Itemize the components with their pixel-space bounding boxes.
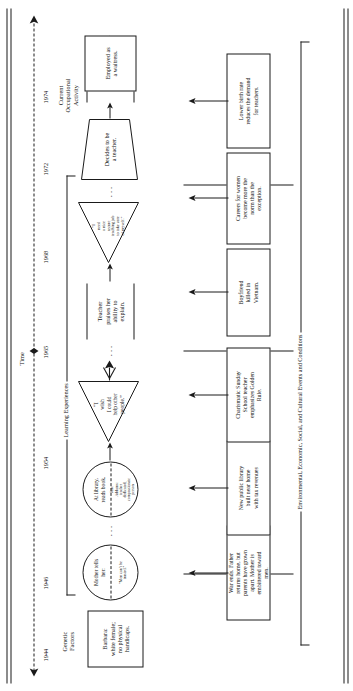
page-rule-bottom-outer: [347, 8, 348, 683]
arrow-teacher-to-need: [105, 263, 114, 281]
year-1974: 1974: [41, 90, 48, 103]
time-axis-mid-tick: [28, 346, 39, 355]
genetic-factors-box: Barbara: white female; no physical handi…: [87, 610, 143, 667]
env-box-war-ends: War ends. Father returns home, but paren…: [226, 525, 270, 620]
env-box-lower-birth-rate: Lower birth rate reduces the demand for …: [226, 53, 270, 148]
diagram-canvas: Time 1944 1946 1954 1965 1968 1972 1974 …: [0, 0, 353, 691]
node-mother-tells-her: Mother tells her: “Men can’t be trusted.…: [82, 544, 138, 600]
node-at-library-bottom: Jane Addams: teacher dedicated, compassi…: [110, 462, 137, 516]
diagram-page: Time 1944 1946 1954 1965 1968 1972 1974 …: [0, 0, 353, 691]
year-1944: 1944: [41, 648, 48, 661]
ellipsis-3: ···: [107, 185, 115, 198]
node-teacher-praises-her: Teacher praises her ability to explain.: [86, 283, 134, 339]
environmental-conditions-label: Environmental, Economic, Social, and Cul…: [295, 332, 302, 511]
env-box-careers-for-women: Careers for women become more the norm t…: [226, 152, 270, 244]
node-mother-tells-her-bottom: “Men can’t be trusted.”: [110, 545, 137, 599]
node-at-library-reads-book: At library, reads book. Jane Addams: tea…: [82, 461, 138, 517]
page-rule-bottom-inner: [343, 8, 344, 683]
ellipsis-1: ···: [107, 524, 115, 537]
arrow-decides-to-searches: [105, 102, 114, 118]
arrow-war-ends-to-node: [188, 568, 228, 577]
node-mother-tells-her-top: Mother tells her:: [83, 545, 110, 599]
triple-arrow-wish-to-teacher: [100, 360, 118, 380]
learning-experiences-label: Learning Experiences: [61, 381, 68, 439]
env-box-new-public-library: New public library built near home with …: [226, 440, 270, 535]
arrow-library-to-wish: [105, 442, 114, 460]
env-box-sunday-school-teacher: Charismatic Sunday School teacher emphas…: [226, 347, 270, 442]
year-1965: 1965: [41, 345, 48, 358]
year-1954: 1954: [41, 456, 48, 469]
node-wish-help-other-people: “I wish I could help other people.”: [77, 380, 139, 442]
node-decides-to-be-a-teacher: Decides to be a teacher.: [80, 118, 138, 180]
arrow-vietnam-to-node: [188, 287, 228, 296]
node-wish-text: “I wish I could help other people.”: [77, 380, 139, 428]
year-1946: 1946: [41, 576, 48, 589]
page-rule-top-inner: [10, 8, 11, 683]
arrow-library-to-node: [188, 483, 228, 492]
time-label: Time: [17, 352, 24, 365]
env-box-boyfriend-vietnam: Boyfriend killed in Vietnam.: [226, 248, 270, 336]
arrow-birth-rate-to-node: [188, 96, 228, 105]
year-1972: 1972: [41, 162, 48, 175]
node-need-secure-teaching-job: “I need a nice secure teaching job to ta…: [77, 201, 139, 263]
genetic-factors-label: Genetic Factors: [60, 613, 75, 669]
time-axis-arrow-left: [28, 665, 39, 677]
outcome-employed-as-a-waitress: Employed as a waitress.: [84, 35, 136, 91]
page-rule-top-outer: [6, 8, 7, 683]
node-at-library-top: At library, reads book.: [83, 462, 110, 516]
current-occupational-activity-label: Current Occupational Activity: [56, 55, 78, 135]
arrow-careers-to-node: [188, 193, 228, 202]
year-1968: 1968: [41, 250, 48, 263]
node-decides-text: Decides to be a teacher.: [80, 118, 138, 180]
arrow-sunday-school-to-node: [188, 390, 228, 399]
time-axis-arrow-right: [28, 14, 39, 26]
ellipsis-2: ···: [107, 344, 115, 357]
node-need-text: “I need a nice secure teaching job to ta…: [77, 201, 139, 250]
